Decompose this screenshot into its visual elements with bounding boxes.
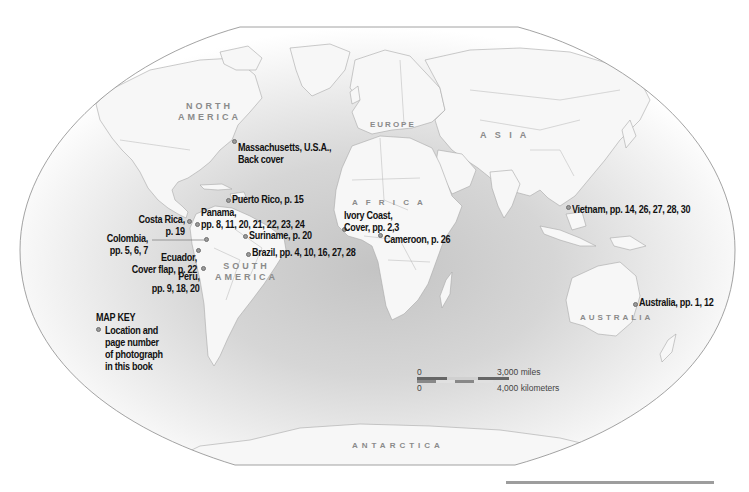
region-label-line: AMERICA — [178, 112, 241, 123]
region-label-line: ANTARCTICA — [352, 441, 444, 450]
location-label-line: Brazil, pp. 4, 10, 16, 27, 28 — [252, 246, 355, 258]
location-label-australia: Australia, pp. 1, 12 — [639, 296, 714, 308]
map-key-title: MAP KEY — [96, 311, 162, 323]
region-label-line: SOUTH — [215, 261, 278, 272]
location-label-line: Cover, pp. 2,3 — [344, 221, 399, 233]
region-label-europe: EUROPE — [370, 119, 416, 130]
region-label-line: NORTH — [178, 101, 241, 112]
location-label-line: Vietnam, pp. 14, 26, 27, 28, 30 — [572, 203, 690, 215]
location-label-line: Australia, pp. 1, 12 — [639, 296, 714, 308]
map-key: MAP KEY Location and page number of phot… — [96, 311, 172, 372]
location-label-line: Puerto Rico, p. 15 — [232, 193, 304, 205]
map-key-line: page number — [105, 336, 163, 348]
location-label-line: Peru, — [152, 270, 200, 282]
scale-km-zero: 0 — [417, 383, 422, 393]
map-key-line: of photograph — [105, 348, 163, 360]
location-label-line: Ecuador, — [132, 251, 197, 263]
location-marker-colombia[interactable] — [204, 237, 209, 242]
location-label-cameroon: Cameroon, p. 26 — [384, 233, 450, 245]
region-label-australia: AUSTRALIA — [580, 312, 653, 323]
location-marker-peru[interactable] — [201, 266, 206, 271]
location-label-line: Cameroon, p. 26 — [384, 233, 450, 245]
page-rule-divider — [506, 481, 714, 484]
location-marker-australia[interactable] — [633, 302, 638, 307]
scale-miles-zero: 0 — [417, 367, 422, 377]
region-label-africa: A F R I C A — [352, 197, 426, 208]
map-key-line: in this book — [105, 360, 163, 372]
scale-miles-value: 3,000 miles — [497, 367, 540, 377]
location-label-line: Colombia, — [107, 232, 148, 244]
location-marker-cameroon[interactable] — [378, 233, 383, 238]
location-label-brazil: Brazil, pp. 4, 10, 16, 27, 28 — [252, 246, 355, 258]
location-label-peru: Peru, pp. 9, 18, 20 — [152, 270, 200, 294]
region-label-line: A S I A — [480, 130, 529, 140]
scale-km-bar — [417, 380, 493, 383]
location-marker-vietnam[interactable] — [566, 205, 571, 210]
region-label-line: A F R I C A — [352, 198, 426, 207]
scale-km-value: 4,000 kilometers — [497, 383, 559, 393]
location-marker-brazil[interactable] — [246, 252, 251, 257]
location-label-massachusetts: Massachusetts, U.S.A., Back cover — [238, 141, 331, 165]
region-label-line: AMERICA — [215, 272, 278, 283]
location-marker-massachusetts[interactable] — [232, 139, 237, 144]
location-label-line: Ivory Coast, — [344, 209, 399, 221]
location-label-line: pp. 9, 18, 20 — [152, 282, 200, 294]
region-label-antarctica: ANTARCTICA — [352, 440, 444, 451]
location-label-panama: Panama, pp. 8, 11, 20, 21, 22, 23, 24 — [201, 206, 304, 230]
region-label-asia: A S I A — [480, 130, 529, 141]
region-label-north-america: NORTH AMERICA — [178, 101, 241, 123]
location-marker-panama[interactable] — [195, 222, 200, 227]
map-key-line: Location and — [105, 324, 163, 336]
map-key-entry: Location and page number of photograph i… — [96, 324, 172, 372]
location-label-ivory-coast: Ivory Coast, Cover, pp. 2,3 — [344, 209, 399, 233]
location-label-line: Massachusetts, U.S.A., — [238, 141, 331, 153]
location-label-vietnam: Vietnam, pp. 14, 26, 27, 28, 30 — [572, 203, 690, 215]
map-key-marker-icon — [96, 327, 101, 332]
location-marker-suriname[interactable] — [243, 234, 248, 239]
region-label-south-america: SOUTH AMERICA — [215, 261, 278, 283]
location-label-suriname: Suriname, p. 20 — [249, 229, 312, 241]
location-label-line: Panama, — [201, 206, 304, 218]
location-label-line: Costa Rica, — [139, 213, 185, 225]
location-label-line: Suriname, p. 20 — [249, 229, 312, 241]
region-label-line: AUSTRALIA — [580, 313, 653, 322]
location-marker-costa-rica[interactable] — [187, 219, 192, 224]
location-label-line: Back cover — [238, 153, 331, 165]
map-key-description: Location and page number of photograph i… — [105, 324, 163, 372]
region-label-line: EUROPE — [370, 120, 416, 129]
location-marker-puerto-rico[interactable] — [226, 198, 231, 203]
location-label-puerto-rico: Puerto Rico, p. 15 — [232, 193, 304, 205]
